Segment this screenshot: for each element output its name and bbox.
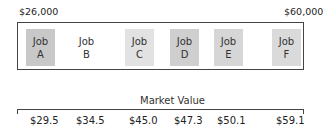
job-box-c: Job C — [125, 29, 154, 66]
job-label: Job — [33, 35, 48, 48]
job-label: Job — [221, 35, 236, 48]
job-label: Job — [132, 35, 147, 48]
market-value-f: $59.1 — [276, 115, 305, 126]
job-label: Job — [279, 35, 294, 48]
market-value-b: $34.5 — [76, 115, 105, 126]
range-max-label: $60,000 — [284, 6, 323, 17]
job-letter: B — [83, 48, 90, 61]
job-box-a: Job A — [26, 29, 55, 66]
axis-title: Market Value — [140, 95, 205, 106]
market-value-axis — [17, 109, 304, 114]
salary-range-frame — [17, 22, 304, 70]
market-value-a: $29.5 — [30, 115, 59, 126]
job-letter: D — [181, 48, 189, 61]
job-label: Job — [79, 35, 94, 48]
job-letter: A — [37, 48, 44, 61]
market-value-c: $45.0 — [129, 115, 158, 126]
range-min-label: $26,000 — [19, 6, 58, 17]
job-box-e: Job E — [214, 29, 243, 66]
job-letter: C — [136, 48, 143, 61]
job-letter: F — [284, 48, 290, 61]
job-box-d: Job D — [170, 29, 199, 66]
job-letter: E — [225, 48, 231, 61]
market-value-e: $50.1 — [217, 115, 246, 126]
job-box-b: Job B — [72, 29, 101, 66]
job-label: Job — [177, 35, 192, 48]
job-box-f: Job F — [272, 29, 301, 66]
market-value-d: $47.3 — [174, 115, 203, 126]
